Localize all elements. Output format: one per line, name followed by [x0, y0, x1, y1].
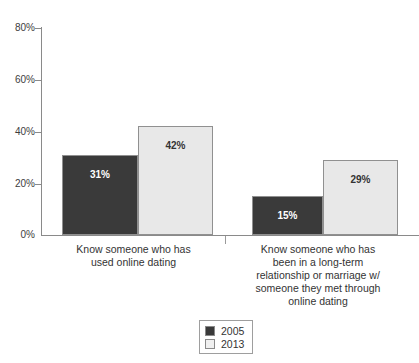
legend-item-2013[interactable]: 2013: [205, 337, 244, 350]
bar-value-label: 15%: [253, 211, 322, 221]
category-label-line: Know someone who has: [46, 243, 221, 256]
y-axis-label-20-wrap: 20%: [0, 179, 35, 189]
y-axis-tick-20: [35, 184, 41, 185]
y-axis-label-40: 40%: [2, 127, 35, 137]
y-axis-label-60: 60%: [2, 75, 35, 85]
category-label-line: used online dating: [46, 256, 221, 269]
y-axis-tick-40: [35, 132, 41, 133]
bar-2005-know-someone-used-online-dating[interactable]: 31%: [62, 155, 138, 235]
y-axis-label-40-wrap: 40%: [0, 127, 35, 137]
x-axis-category-divider: [225, 236, 226, 244]
category-label-line: someone they met through: [228, 282, 408, 295]
chart-legend: 2005 2013: [199, 320, 253, 354]
legend-swatch-icon-2005: [205, 326, 215, 336]
legend-swatch-icon-2013: [205, 339, 215, 349]
y-axis-line: [41, 27, 42, 236]
bar-value-label: 29%: [324, 175, 397, 185]
bar-chart: 80% 60% 40% 20% 0% 31% 42% 15% 29% Know …: [0, 0, 419, 363]
bar-value-label: 31%: [63, 170, 137, 180]
legend-label-2005: 2005: [221, 325, 244, 337]
x-axis-line: [41, 235, 419, 236]
chart-title: [0, 0, 419, 4]
category-label-line: relationship or marriage w/: [228, 269, 408, 282]
y-axis-label-80-wrap: 80%: [0, 23, 35, 33]
bar-value-label: 42%: [139, 141, 212, 151]
bar-2013-know-someone-long-term-relationship[interactable]: 29%: [323, 160, 398, 235]
y-axis-tick-60: [35, 80, 41, 81]
category-label-line: Know someone who has: [228, 243, 408, 256]
y-axis-label-0: 0%: [2, 230, 35, 240]
y-axis-label-20: 20%: [2, 179, 35, 189]
bar-2013-know-someone-used-online-dating[interactable]: 42%: [138, 126, 213, 235]
y-axis-label-60-wrap: 60%: [0, 75, 35, 85]
bar-2005-know-someone-long-term-relationship[interactable]: 15%: [252, 196, 323, 235]
y-axis-label-80: 80%: [2, 23, 35, 33]
y-axis-tick-80: [35, 28, 41, 29]
y-axis-label-0-wrap: 0%: [0, 230, 35, 240]
x-axis-category-label-0: Know someone who has used online dating: [46, 243, 221, 269]
category-label-line: online dating: [228, 295, 408, 308]
legend-item-2005[interactable]: 2005: [205, 324, 244, 337]
legend-label-2013: 2013: [221, 338, 244, 350]
x-axis-category-label-1: Know someone who has been in a long-term…: [228, 243, 408, 308]
category-label-line: been in a long-term: [228, 256, 408, 269]
